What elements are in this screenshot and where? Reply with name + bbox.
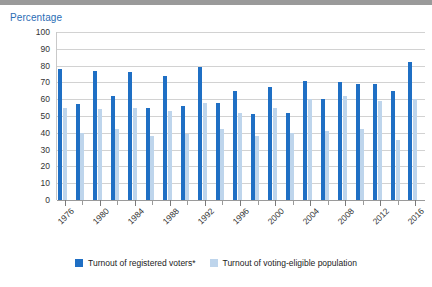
x-tick-label-1980: 1980 — [90, 206, 110, 226]
bar-group — [320, 32, 338, 200]
x-tick-label-1984: 1984 — [125, 206, 145, 226]
legend-item-1[interactable]: Turnout of voting-eligible population — [210, 258, 357, 268]
chart-figure: Percentage 0102030405060708090100 197619… — [0, 0, 432, 287]
bar-eligible-2010 — [360, 129, 364, 200]
x-tick-label-1988: 1988 — [161, 206, 181, 226]
legend-label-1: Turnout of voting-eligible population — [223, 258, 357, 268]
bar-group — [285, 32, 303, 200]
y-tick-label-40: 40 — [41, 129, 50, 138]
bar-registered-2000 — [268, 87, 272, 200]
bar-registered-1996 — [233, 91, 237, 200]
y-tick-label-80: 80 — [41, 61, 50, 70]
bar-series-container — [57, 32, 425, 200]
bar-registered-1994 — [216, 103, 220, 200]
x-tick-label-2008: 2008 — [336, 206, 356, 226]
bar-registered-1982 — [111, 96, 115, 200]
legend-swatch-icon-1 — [210, 259, 218, 267]
bar-registered-2002 — [286, 113, 290, 200]
y-tick-label-10: 10 — [41, 179, 50, 188]
x-tick-1986 — [152, 200, 153, 205]
y-tick-label-20: 20 — [41, 162, 50, 171]
bar-group — [162, 32, 180, 200]
legend-swatch-icon-0 — [75, 259, 83, 267]
bar-registered-1988 — [163, 76, 167, 200]
bar-group — [75, 32, 93, 200]
bar-eligible-2006 — [325, 131, 329, 200]
bar-group — [267, 32, 285, 200]
x-tick-2014 — [398, 200, 399, 205]
bar-registered-2008 — [338, 82, 342, 200]
bar-group — [57, 32, 75, 200]
bar-group — [390, 32, 408, 200]
bar-group — [232, 32, 250, 200]
x-tick-1994 — [222, 200, 223, 205]
bar-registered-2004 — [303, 81, 307, 200]
bar-registered-1984 — [128, 72, 132, 200]
bar-eligible-1994 — [220, 129, 224, 200]
bar-group — [407, 32, 425, 200]
bar-eligible-1980 — [98, 109, 102, 200]
bar-eligible-2002 — [290, 133, 294, 200]
bar-eligible-1976 — [63, 108, 67, 200]
y-tick-label-30: 30 — [41, 145, 50, 154]
bar-group — [127, 32, 145, 200]
bar-eligible-2004 — [308, 99, 312, 200]
x-tick-1978 — [82, 200, 83, 205]
y-tick-label-0: 0 — [45, 196, 50, 205]
top-divider — [0, 0, 432, 5]
bar-group — [302, 32, 320, 200]
bar-registered-2006 — [321, 99, 325, 200]
bar-eligible-2012 — [378, 101, 382, 200]
bar-registered-1980 — [93, 71, 97, 200]
bar-eligible-1982 — [115, 129, 119, 200]
bar-registered-1978 — [76, 104, 80, 200]
bar-registered-2012 — [373, 84, 377, 200]
bar-eligible-1988 — [168, 111, 172, 200]
x-tick-2006 — [328, 200, 329, 205]
legend-label-0: Turnout of registered voters* — [88, 258, 195, 268]
chart-legend: Turnout of registered voters*Turnout of … — [0, 258, 432, 268]
bar-eligible-1986 — [150, 136, 154, 200]
bar-eligible-1984 — [133, 108, 137, 200]
x-tick-1998 — [258, 200, 259, 205]
bar-group — [215, 32, 233, 200]
y-tick-label-90: 90 — [41, 45, 50, 54]
x-tick-label-2016: 2016 — [406, 206, 426, 226]
bar-eligible-1996 — [238, 113, 242, 200]
legend-item-0[interactable]: Turnout of registered voters* — [75, 258, 195, 268]
bar-group — [180, 32, 198, 200]
plot-area — [56, 32, 424, 200]
y-tick-label-60: 60 — [41, 95, 50, 104]
x-tick-label-1996: 1996 — [231, 206, 251, 226]
bar-group — [372, 32, 390, 200]
x-tick-1982 — [117, 200, 118, 205]
x-tick-label-1992: 1992 — [196, 206, 216, 226]
bar-group — [337, 32, 355, 200]
bar-registered-1990 — [181, 106, 185, 200]
x-tick-2010 — [363, 200, 364, 205]
x-axis-tick-labels: 1976198019841988199219962000200420082012… — [56, 206, 432, 242]
bar-eligible-1990 — [185, 134, 189, 200]
bar-registered-2014 — [391, 91, 395, 200]
bar-registered-1998 — [251, 114, 255, 200]
bar-group — [197, 32, 215, 200]
y-tick-label-70: 70 — [41, 78, 50, 87]
x-tick-label-2000: 2000 — [266, 206, 286, 226]
bar-registered-1986 — [146, 108, 150, 200]
bar-registered-2010 — [356, 84, 360, 200]
y-tick-label-100: 100 — [36, 28, 50, 37]
bar-eligible-1978 — [80, 133, 84, 200]
bar-group — [92, 32, 110, 200]
bar-group — [110, 32, 128, 200]
bar-eligible-1992 — [203, 103, 207, 200]
x-tick-1990 — [187, 200, 188, 205]
x-tick-label-2012: 2012 — [371, 206, 391, 226]
bar-registered-2016 — [408, 62, 412, 200]
bar-eligible-2016 — [413, 99, 417, 200]
y-tick-label-50: 50 — [41, 112, 50, 121]
x-tick-2002 — [293, 200, 294, 205]
bar-eligible-1998 — [255, 136, 259, 200]
bar-eligible-2008 — [343, 96, 347, 200]
y-axis-tick-labels: 0102030405060708090100 — [0, 32, 50, 200]
bar-registered-1992 — [198, 67, 202, 200]
